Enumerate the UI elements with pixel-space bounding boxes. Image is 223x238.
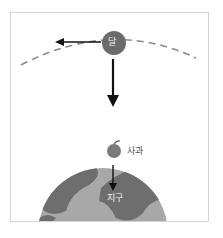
- apple-icon: [107, 144, 121, 158]
- apple-label: 사과: [127, 144, 143, 157]
- diagram-frame: 달 사과 지구: [10, 12, 209, 222]
- arrowhead-down-icon: [107, 95, 119, 107]
- arrowhead-left-icon: [55, 38, 64, 46]
- earth-label: 지구: [107, 191, 123, 204]
- moon-label: 달: [108, 35, 116, 48]
- earth-icon: [31, 161, 172, 222]
